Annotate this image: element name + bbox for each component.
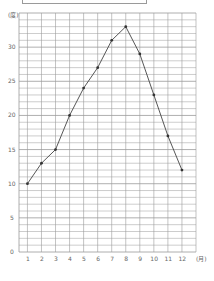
x-tick-label: 4 [68, 256, 72, 262]
y-tick-label: 15 [8, 147, 16, 153]
y-tick-label: 0 [10, 249, 14, 255]
x-tick-label: 9 [138, 256, 142, 262]
x-tick-label: 10 [150, 256, 158, 262]
y-axis-unit-label: (度) [8, 12, 19, 18]
x-tick-label: 7 [110, 256, 114, 262]
x-tick-label: 2 [40, 256, 44, 262]
x-axis-unit-label: (月) [196, 256, 207, 262]
x-tick-label: 5 [82, 256, 86, 262]
x-tick-label: 11 [164, 256, 172, 262]
y-tick-label: 25 [8, 78, 16, 84]
y-tick-label: 20 [8, 112, 16, 118]
x-tick-label: 12 [178, 256, 186, 262]
y-tick-label: 10 [8, 181, 16, 187]
x-tick-label: 3 [54, 256, 58, 262]
line-chart [0, 0, 214, 281]
y-tick-label: 5 [10, 215, 14, 221]
x-tick-label: 1 [26, 256, 30, 262]
x-tick-label: 8 [124, 256, 128, 262]
y-tick-label: 30 [8, 44, 16, 50]
x-tick-label: 6 [96, 256, 100, 262]
